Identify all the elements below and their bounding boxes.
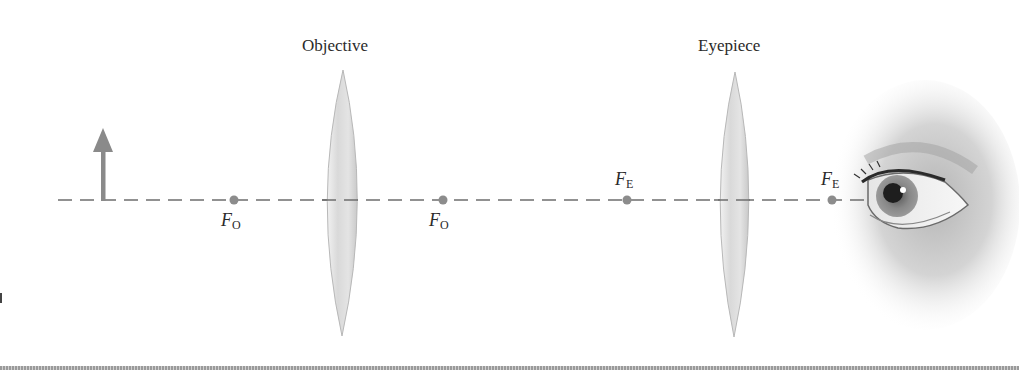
focal-dot-fe-left bbox=[623, 196, 632, 205]
focal-subscript: E bbox=[832, 177, 839, 191]
bottom-divider bbox=[0, 366, 1019, 370]
objective-lens bbox=[327, 70, 357, 336]
focal-subscript: O bbox=[440, 218, 449, 232]
eye-illustration bbox=[830, 80, 1019, 330]
focal-dot-fe-right bbox=[828, 196, 837, 205]
edge-mark bbox=[0, 293, 2, 303]
focal-subscript: E bbox=[626, 177, 633, 191]
focal-symbol: F bbox=[429, 210, 440, 230]
eyepiece-label: Eyepiece bbox=[698, 36, 760, 56]
object-arrow bbox=[93, 128, 113, 201]
focal-dot-fo-left bbox=[230, 196, 239, 205]
focal-symbol: F bbox=[221, 210, 232, 230]
focal-label-fo-right: FO bbox=[429, 210, 449, 233]
focal-label-fo-left: FO bbox=[221, 210, 241, 233]
focal-subscript: O bbox=[232, 218, 241, 232]
focal-label-fe-left: FE bbox=[615, 169, 633, 192]
focal-label-fe-right: FE bbox=[821, 169, 839, 192]
microscope-diagram: Objective Eyepiece FO FO FE FE bbox=[0, 0, 1019, 373]
diagram-canvas bbox=[0, 0, 1019, 373]
focal-dot-fo-right bbox=[439, 196, 448, 205]
objective-label: Objective bbox=[302, 36, 368, 56]
focal-symbol: F bbox=[821, 169, 832, 189]
focal-symbol: F bbox=[615, 169, 626, 189]
eyepiece-lens bbox=[720, 72, 749, 337]
